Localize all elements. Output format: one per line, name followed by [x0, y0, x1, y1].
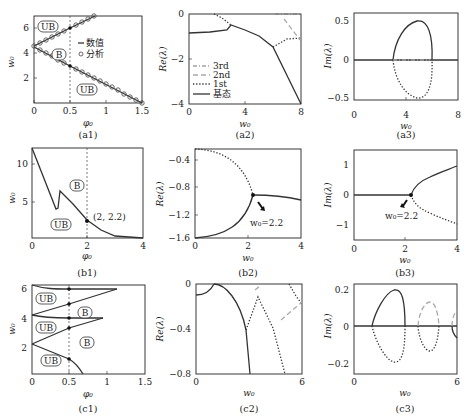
svg-text:6: 6 [454, 377, 460, 387]
svg-text:w₀: w₀ [399, 255, 411, 265]
svg-text:1: 1 [104, 377, 110, 387]
svg-text:4: 4 [21, 314, 27, 324]
svg-text:φ₀: φ₀ [82, 251, 92, 261]
panel-a1: 0 0.5 1 1.5 2 4 6 φ₀ w₀ (a1) UB B UB 数值 … [6, 14, 149, 140]
annotation-b3: w₀=2.2 [385, 211, 418, 221]
svg-text:0: 0 [29, 377, 35, 387]
svg-text:UB: UB [44, 356, 59, 366]
svg-text:Re(λ): Re(λ) [155, 316, 165, 342]
svg-text:0: 0 [178, 9, 184, 19]
svg-text:w₀: w₀ [239, 119, 251, 129]
svg-text:w₀: w₀ [7, 192, 17, 204]
svg-text:4: 4 [403, 110, 409, 120]
legend-numeric: 数值 [86, 37, 104, 48]
svg-text:Re(λ): Re(λ) [155, 181, 165, 207]
svg-text:B: B [56, 50, 63, 60]
svg-text:B: B [84, 338, 91, 348]
svg-text:Re(λ): Re(λ) [158, 46, 168, 72]
svg-text:5: 5 [22, 197, 28, 207]
panel-c1: 0 0.5 1 1.5 6 4 2 φ₀ w₀ (c1) UB B UB B U… [7, 284, 152, 414]
svg-text:UB: UB [80, 85, 95, 95]
svg-text:Im(λ): Im(λ) [323, 43, 333, 69]
svg-text:0: 0 [343, 322, 349, 332]
annotation-b1: (2, 2.2) [93, 212, 126, 222]
caption-c2: (c2) [240, 403, 259, 414]
svg-text:6: 6 [23, 23, 29, 33]
svg-text:6: 6 [299, 377, 305, 387]
svg-text:4: 4 [298, 241, 304, 251]
caption-c1: (c1) [79, 403, 98, 414]
svg-text:8: 8 [455, 110, 461, 120]
svg-text:−0.4: −0.4 [168, 155, 190, 165]
caption-c3: (c3) [396, 403, 415, 414]
svg-text:0.5: 0.5 [335, 16, 350, 26]
svg-text:2: 2 [21, 343, 27, 353]
svg-text:1st: 1st [213, 79, 227, 89]
svg-text:1: 1 [343, 160, 349, 170]
svg-text:2: 2 [23, 73, 29, 83]
svg-text:0.5: 0.5 [63, 106, 78, 116]
svg-text:−0.5: −0.5 [327, 93, 349, 103]
svg-text:w₀: w₀ [399, 388, 411, 398]
svg-text:w₀: w₀ [7, 323, 17, 335]
panel-b3: 0 2 4 1 0 −1 w₀ Im(λ) (b3) w₀=2.2 [323, 150, 460, 278]
svg-text:0: 0 [343, 55, 349, 65]
svg-text:−4: −4 [171, 99, 185, 109]
svg-text:0.2: 0.2 [335, 285, 349, 295]
svg-text:UB: UB [39, 294, 54, 304]
svg-text:B: B [82, 308, 89, 318]
svg-text:4: 4 [454, 244, 460, 254]
svg-text:基态: 基态 [213, 88, 231, 99]
svg-text:0: 0 [343, 190, 349, 200]
svg-text:w₀: w₀ [242, 253, 254, 263]
caption-a2: (a2) [235, 129, 254, 140]
svg-text:2: 2 [84, 241, 90, 251]
svg-text:4: 4 [23, 48, 29, 58]
svg-text:0: 0 [351, 377, 357, 387]
caption-b2: (b2) [238, 267, 258, 278]
svg-text:w₀: w₀ [243, 388, 255, 398]
svg-text:0: 0 [193, 377, 199, 387]
svg-text:−1: −1 [336, 220, 349, 230]
svg-text:1: 1 [103, 106, 109, 116]
svg-text:−1.6: −1.6 [168, 233, 190, 243]
caption-b1: (b1) [77, 267, 97, 278]
figure-canvas: 0 0.5 1 1.5 2 4 6 φ₀ w₀ (a1) UB B UB 数值 … [0, 0, 471, 416]
svg-text:−0.8: −0.8 [169, 369, 191, 379]
svg-text:4: 4 [140, 241, 146, 251]
svg-text:4: 4 [242, 107, 248, 117]
svg-text:0.5: 0.5 [62, 377, 77, 387]
svg-text:UB: UB [39, 323, 54, 333]
svg-text:0: 0 [185, 279, 191, 289]
svg-text:0: 0 [351, 244, 357, 254]
caption-a1: (a1) [78, 129, 97, 140]
svg-text:−0.4: −0.4 [169, 324, 191, 334]
svg-text:φ₀: φ₀ [83, 118, 93, 128]
svg-text:1.5: 1.5 [138, 377, 153, 387]
svg-text:UB: UB [41, 22, 56, 32]
svg-text:2: 2 [402, 244, 408, 254]
svg-text:0: 0 [351, 110, 357, 120]
svg-text:0: 0 [192, 241, 198, 251]
svg-text:−0.8: −0.8 [168, 182, 190, 192]
svg-text:UB: UB [54, 220, 69, 230]
caption-a3: (a3) [396, 129, 415, 140]
svg-text:0: 0 [29, 241, 35, 251]
panel-c2: 0 6 0 −0.4 −0.8 w₀ Re(λ) (c2) [155, 279, 305, 414]
svg-text:φ₀: φ₀ [83, 389, 93, 399]
svg-text:Im(λ): Im(λ) [323, 313, 333, 339]
panel-c3: 0 6 0.2 0 −0.2 w₀ Im(λ) (c3) [323, 284, 460, 414]
svg-text:−0.2: −0.2 [327, 359, 349, 369]
svg-text:10: 10 [17, 159, 29, 169]
legend-analytic: 分析 [86, 48, 104, 59]
svg-text:6: 6 [21, 284, 27, 294]
svg-text:0: 0 [31, 106, 37, 116]
panel-a2: 0 4 8 0 −2 −4 w₀ Re(λ) (a2) 3rd 2nd 1st … [158, 9, 304, 140]
panel-b1: 0 2 4 5 10 φ₀ w₀ (b1) (2, 2.2) B UB [7, 148, 146, 278]
svg-text:0: 0 [186, 107, 192, 117]
panel-b2: 0 2 4 −1.6 −1.2 −0.8 −0.4 w₀ Re(λ) (b2) … [155, 149, 304, 278]
svg-text:2: 2 [245, 241, 251, 251]
legend-a2: 3rd 2nd 1st 基态 [193, 61, 231, 99]
panel-a3: 0 4 8 0.5 0 −0.5 w₀ Im(λ) (a3) [323, 13, 461, 140]
svg-text:1.5: 1.5 [135, 106, 150, 116]
